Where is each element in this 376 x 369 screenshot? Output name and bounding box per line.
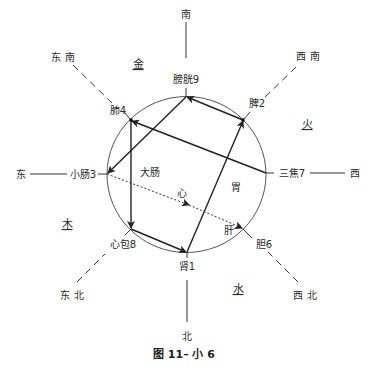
inner-large-intestine: 大肠: [140, 166, 160, 178]
edge-small-intestine-to-gallbladder-b: [189, 205, 242, 228]
spoke-southeast: [73, 65, 112, 103]
element-fire: 火: [302, 118, 313, 131]
direction-southwest: 西 南: [296, 50, 319, 62]
element-water: 水: [233, 283, 244, 296]
direction-southeast: 东 南: [51, 51, 74, 63]
node-sanjiao: 三焦7: [279, 167, 305, 179]
spoke-northeast-inner: [125, 229, 131, 235]
figure-caption: 图 11– 小 6: [153, 347, 215, 361]
node-dot-spleen: [241, 118, 245, 122]
edge-spleen-to-bladder: [187, 97, 243, 120]
direction-south: 南: [181, 8, 191, 20]
node-dot-lung: [129, 118, 133, 122]
direction-northwest: 西 北: [293, 290, 316, 301]
node-pericardium: 心包8: [110, 238, 136, 250]
inner-heart: 心: [177, 188, 187, 199]
element-metal: 金: [133, 57, 144, 71]
direction-northeast: 东 北: [60, 289, 83, 301]
spoke-northwest: [268, 252, 298, 282]
element-wood: 木: [62, 218, 73, 231]
edge-sanjiao-to-lung: [132, 121, 266, 173]
spoke-northeast: [77, 254, 105, 282]
diagram-canvas: 南 北 东 西 东 南 西 南 东 北 西 北 金 火 木 水 膀胱9 脾2 三…: [0, 0, 376, 369]
spoke-northwest-inner: [243, 229, 252, 238]
node-bladder: 膀胱9: [173, 73, 199, 85]
node-spleen: 脾2: [249, 97, 265, 109]
direction-north: 北: [182, 331, 192, 342]
inner-stomach: 胃: [231, 182, 241, 193]
node-small-intestine: 小肠3: [70, 169, 96, 180]
inner-liver: 肝: [224, 225, 234, 236]
spoke-southwest: [262, 67, 296, 100]
node-gallbladder: 胆6: [256, 239, 272, 250]
node-lung: 肺4: [110, 105, 126, 116]
edge-pericardium-to-kidney: [131, 229, 186, 252]
direction-east: 东: [16, 168, 26, 180]
node-kidney: 肾1: [179, 261, 195, 272]
direction-west: 西: [350, 168, 360, 179]
